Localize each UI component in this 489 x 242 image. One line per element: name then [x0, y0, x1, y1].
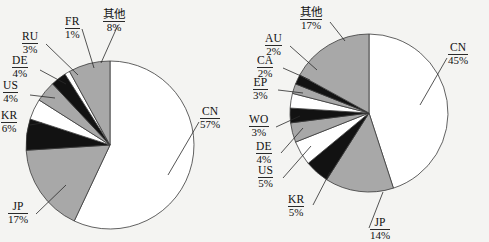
label-pct: 17% — [8, 213, 28, 225]
label-pct: 6% — [1, 122, 17, 134]
label-pct: 1% — [65, 28, 80, 40]
label-code: EP — [253, 76, 267, 88]
label-code: DE — [12, 54, 28, 66]
label-code: AU — [265, 32, 282, 44]
label-right-cn: CN 45% — [448, 38, 468, 67]
label-code: RU — [22, 30, 38, 42]
label-pct: 8% — [103, 21, 125, 33]
label-code: US — [3, 79, 18, 91]
label-code: CN — [202, 105, 218, 117]
label-code: US — [258, 164, 273, 176]
label-right-jp: JP 14% — [370, 213, 390, 242]
label-code: CN — [450, 41, 466, 53]
label-right-other: 其他 17% — [300, 3, 322, 32]
label-left-fr: FR 1% — [65, 12, 80, 41]
label-pct: 17% — [300, 19, 322, 31]
leader-right-other — [330, 22, 345, 41]
label-pct: 14% — [370, 229, 390, 241]
label-right-ep: EP 3% — [253, 73, 268, 102]
leader-left-ru — [46, 44, 78, 75]
label-right-us: US 5% — [258, 161, 273, 190]
label-code: FR — [65, 15, 79, 27]
label-code: 其他 — [103, 7, 125, 21]
label-left-other: 其他 8% — [103, 5, 125, 34]
left-pie-slices — [26, 61, 194, 229]
label-pct: 45% — [448, 54, 468, 66]
label-code: CA — [257, 54, 273, 66]
label-code: KR — [288, 193, 304, 205]
label-right-kr: KR 5% — [288, 190, 304, 219]
label-code: KR — [1, 109, 17, 121]
label-code: WO — [249, 113, 269, 125]
label-pct: 5% — [288, 206, 304, 218]
label-right-wo: WO 3% — [249, 110, 269, 139]
figure-canvas: RU 3% FR 1% 其他 8% DE 4% US 4% KR 6% CN 5… — [0, 0, 489, 242]
leader-right-kr — [313, 172, 330, 205]
leader-left-fr — [82, 29, 94, 68]
label-pct: 3% — [253, 89, 268, 101]
label-pct: 57% — [200, 118, 220, 130]
label-code: JP — [374, 216, 385, 228]
label-code: JP — [12, 200, 23, 212]
label-left-kr: KR 6% — [1, 106, 17, 135]
right-pie-slices — [290, 34, 448, 192]
label-left-jp: JP 17% — [8, 197, 28, 226]
label-left-cn: CN 57% — [200, 102, 220, 131]
label-pct: 5% — [258, 177, 273, 189]
label-code: 其他 — [300, 5, 322, 19]
label-left-us: US 4% — [3, 76, 18, 105]
label-pct: 4% — [3, 92, 18, 104]
label-code: DE — [256, 140, 272, 152]
